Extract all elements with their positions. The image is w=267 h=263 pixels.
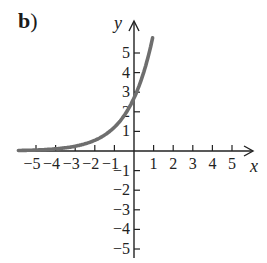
x-tick-label: 4 [208,155,216,172]
y-tick-label: −1 [113,162,130,179]
x-tick-label: 5 [228,155,236,172]
x-tick-label: 2 [169,155,177,172]
exponential-curve [18,38,152,151]
x-tick-label: 3 [189,155,197,172]
y-tick-label: 4 [122,64,130,81]
x-tick-label: −4 [43,155,60,172]
chart: −5−4−3−2−11234554321−1−2−3−4−5xy [0,0,267,263]
y-tick-label: −3 [113,201,130,218]
x-tick-label: 1 [150,155,158,172]
y-tick-label: −4 [113,220,130,237]
y-axis-label: y [112,13,122,33]
y-tick-label: 1 [122,122,130,139]
y-tick-label: −2 [113,181,130,198]
y-tick-label: −5 [113,240,130,257]
y-tick-label: 3 [122,83,130,100]
x-tick-label: −3 [63,155,80,172]
y-tick-label: 5 [122,44,130,61]
x-tick-label: −5 [23,155,40,172]
x-tick-label: −2 [82,155,99,172]
x-axis-label: x [249,156,258,176]
